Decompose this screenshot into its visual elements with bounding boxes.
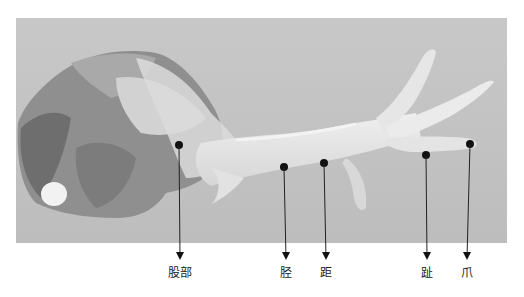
label-spur: 距 <box>320 263 332 280</box>
chicken-leg-photo <box>16 18 507 243</box>
label-thigh: 股部 <box>168 263 192 280</box>
label-toe: 趾 <box>421 263 433 280</box>
label-claw: 爪 <box>461 263 473 280</box>
label-shank: 胫 <box>280 263 292 280</box>
chicken-leg-illustration <box>16 18 507 243</box>
